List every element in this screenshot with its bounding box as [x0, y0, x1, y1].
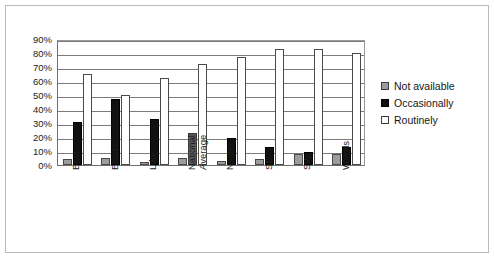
x-tick: SW	[301, 170, 315, 181]
y-tick-label: 20%	[8, 133, 52, 143]
bar	[352, 53, 361, 165]
x-tick-label: Emids	[109, 156, 120, 170]
y-tick-label: 50%	[8, 91, 52, 101]
y-tick-label: 80%	[8, 49, 52, 59]
y-tick-label: 40%	[8, 105, 52, 115]
y-tick-label: 90%	[8, 35, 52, 45]
x-tick: Wmids	[340, 170, 354, 181]
legend-swatch-icon	[381, 82, 389, 90]
x-tick-label: SE	[263, 156, 274, 170]
y-tick-label: 70%	[8, 63, 52, 73]
x-tick: Ldn	[147, 170, 161, 181]
legend-swatch-icon	[381, 116, 389, 124]
chart-legend: Not availableOccasionallyRoutinely	[381, 78, 485, 129]
x-tick-label: East	[70, 156, 81, 170]
plot-area	[57, 40, 365, 166]
gridline-90	[58, 41, 364, 42]
y-tick-label: 0%	[8, 161, 52, 171]
legend-label: Occasionally	[394, 97, 454, 109]
bar	[275, 49, 284, 165]
x-tick-label: Wmids	[340, 156, 351, 170]
bar	[314, 49, 323, 165]
bar	[83, 74, 92, 165]
x-tick: SE	[263, 170, 277, 181]
x-tick-label: SW	[301, 156, 312, 170]
legend-label: Routinely	[394, 114, 438, 126]
x-tick: National Average	[186, 170, 200, 192]
legend-item[interactable]: Occasionally	[381, 95, 485, 110]
x-tick-label: National Average	[186, 110, 208, 170]
legend-item[interactable]: Routinely	[381, 112, 485, 127]
legend-item[interactable]: Not available	[381, 78, 485, 93]
x-tick: Emids	[109, 170, 123, 181]
bar	[237, 57, 246, 165]
bar	[121, 95, 130, 165]
x-tick-label: NY&H	[224, 156, 235, 170]
x-tick: East	[70, 170, 84, 181]
bar	[160, 78, 169, 165]
y-tick-label: 30%	[8, 119, 52, 129]
x-tick: NY&H	[224, 170, 238, 181]
chart-container: 90%80%70%60%50%40%30%20%10%0% EastEmidsL…	[0, 0, 494, 258]
x-tick-label: Ldn	[147, 156, 158, 170]
legend-label: Not available	[394, 80, 455, 92]
y-tick-label: 10%	[8, 147, 52, 157]
legend-swatch-icon	[381, 99, 389, 107]
y-tick-label: 60%	[8, 77, 52, 87]
